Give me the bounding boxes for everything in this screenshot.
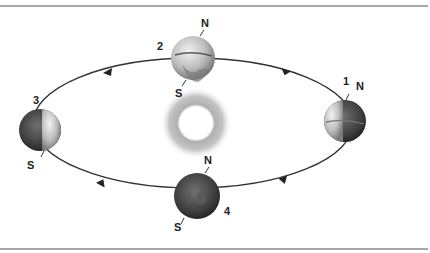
position-number: 4 <box>224 206 230 217</box>
position-number: 3 <box>33 95 39 106</box>
sun <box>160 87 232 159</box>
earth-position-2 <box>171 30 215 86</box>
north-label: N <box>201 18 209 29</box>
south-label: S <box>174 222 181 233</box>
north-label: N <box>356 81 364 92</box>
south-label: S <box>175 88 182 99</box>
earth-position-3 <box>19 109 61 151</box>
north-label: N <box>204 155 212 166</box>
earth-position-4 <box>174 167 220 224</box>
orbit-diagram <box>0 0 430 253</box>
position-number: 2 <box>157 41 163 52</box>
orbit-arrow-icon <box>96 179 106 188</box>
south-label: S <box>27 160 34 171</box>
position-number: 1 <box>343 76 349 87</box>
earth-position-1 <box>324 100 366 142</box>
